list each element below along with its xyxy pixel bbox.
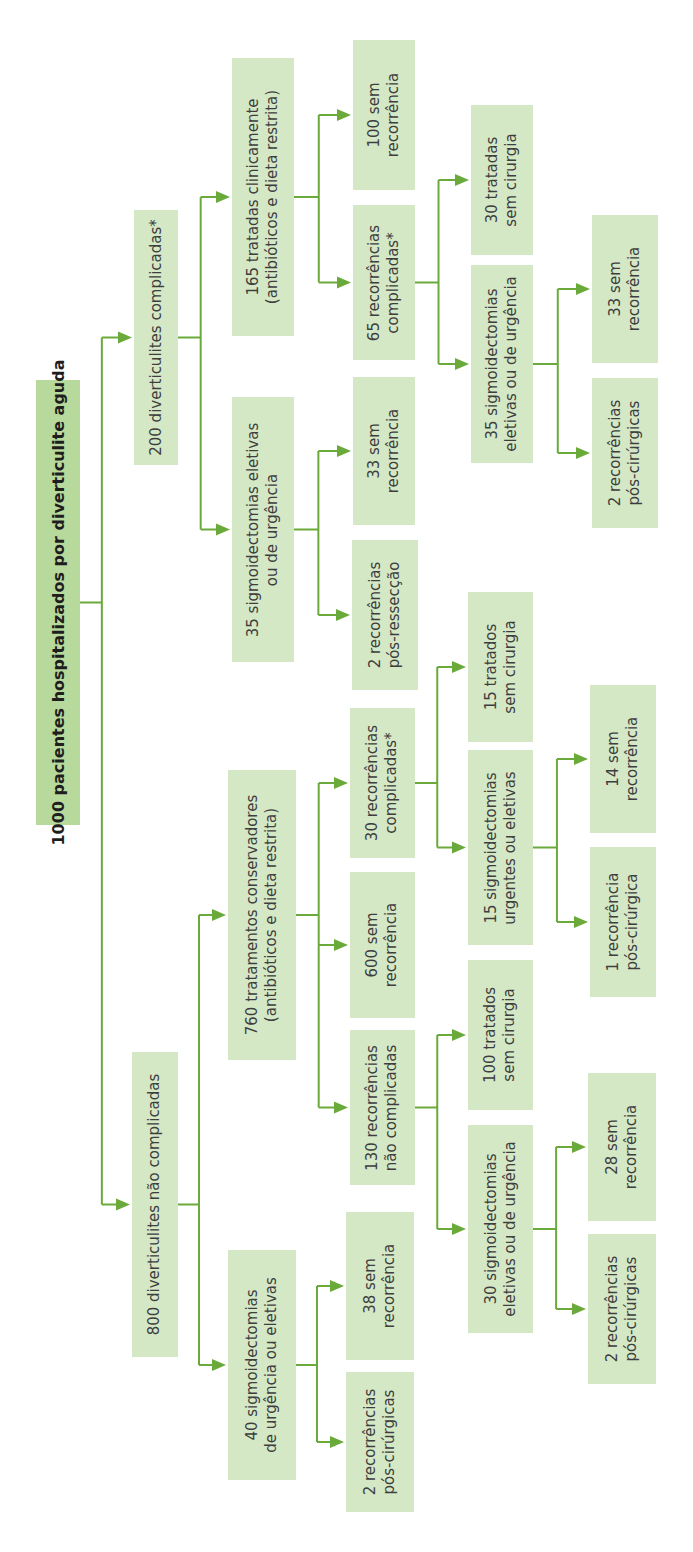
arrow-head-icon — [452, 1029, 466, 1041]
node-u-surg-norec-label: 38 sem recorrência — [361, 1244, 399, 1329]
node-c-clin-rec-label: 65 recorrências complicadas* — [365, 224, 403, 340]
node-u-cons-uncomp-label: 130 recorrências não complicadas — [364, 1044, 402, 1171]
node-c-surg-rec-label: 2 recorrências pós-ressecção — [366, 562, 404, 669]
node-u-conservative-label: 760 tratamentos conservadores (antibióti… — [243, 795, 281, 1036]
node-u-cons-norec: 600 sem recorrência — [350, 872, 415, 1018]
node-c-surg-norec: 33 sem recorrência — [353, 377, 415, 525]
arrow-head-icon — [212, 909, 226, 921]
node-c-clinical: 165 tratadas clinicamente (antibióticos … — [232, 58, 294, 336]
arrow-head-icon — [455, 358, 469, 370]
node-c-surg-norec-label: 33 sem recorrência — [365, 409, 403, 494]
node-uncomplicated-label: 800 diverticulites não complicadas — [146, 1074, 165, 1336]
node-u30-surg-label: 15 sigmoidectomias urgentes ou eletivas — [482, 771, 520, 924]
arrow-head-icon — [452, 1223, 466, 1235]
node-u-cons-uncomp: 130 recorrências não complicadas — [350, 1030, 415, 1185]
node-c35-rec-label: 2 recorrências pós-cirúrgicas — [606, 400, 644, 507]
arrow-head-icon — [572, 1303, 586, 1315]
node-c65-surg: 35 sigmoidectomias eletivas ou de urgênc… — [471, 265, 533, 463]
arrow-head-icon — [337, 445, 351, 457]
node-u30-nosurg: 15 tratados sem cirurgia — [468, 592, 533, 742]
node-c-clinical-label: 165 tratadas clinicamente (antibióticos … — [244, 90, 282, 304]
node-uncomplicated: 800 diverticulites não complicadas — [132, 1052, 178, 1357]
arrow-head-icon — [576, 447, 590, 459]
node-c-surgery-label: 35 sigmoidectomias eletivas ou de urgênc… — [244, 422, 282, 636]
arrow-head-icon — [118, 332, 132, 344]
arrow-head-icon — [216, 524, 230, 536]
node-u-surg-norec: 38 sem recorrência — [346, 1212, 414, 1360]
arrow-head-icon — [337, 277, 351, 289]
arrow-head-icon — [116, 1199, 130, 1211]
node-u130-nosurg-label: 100 tratados sem cirurgia — [482, 987, 520, 1083]
node-u-cons-comp: 30 recorrências complicadas* — [350, 708, 415, 858]
node-complicated: 200 diverticulites complicadas* — [134, 210, 178, 465]
arrow-head-icon — [336, 609, 350, 621]
node-c-surgery: 35 sigmoidectomias eletivas ou de urgênc… — [232, 397, 294, 662]
node-u130-surg-label: 30 sigmoidectomias eletivas ou de urgênc… — [482, 1141, 520, 1317]
node-root: 1000 pacientes hospitalizados por divert… — [36, 380, 80, 825]
node-c-clin-norec-label: 100 sem recorrência — [365, 73, 403, 158]
node-u30-surg: 15 sigmoidectomias urgentes ou eletivas — [468, 750, 533, 945]
arrow-head-icon — [452, 661, 466, 673]
node-u130-surg: 30 sigmoidectomias eletivas ou de urgênc… — [468, 1125, 533, 1333]
node-u-surg-rec-label: 2 recorrências pós-cirúrgicas — [361, 1389, 399, 1496]
arrow-head-icon — [337, 109, 351, 121]
node-c65-surg-label: 35 sigmoidectomias eletivas ou de urgênc… — [483, 276, 521, 452]
node-c35-rec: 2 recorrências pós-cirúrgicas — [592, 378, 658, 528]
node-c-surg-rec: 2 recorrências pós-ressecção — [352, 540, 418, 690]
node-u30s-norec: 28 sem recorrência — [588, 1073, 656, 1221]
node-c35-norec: 33 sem recorrência — [592, 215, 658, 363]
flowchart: 1000 pacientes hospitalizados por divert… — [0, 0, 693, 1552]
node-u-cons-norec-label: 600 sem recorrência — [364, 903, 402, 988]
arrow-head-icon — [576, 283, 590, 295]
arrow-head-icon — [334, 1102, 348, 1114]
node-c65-nosurg-label: 30 tratadas sem cirurgia — [483, 133, 521, 226]
node-u-surgery-label: 40 sigmoidectomias de urgência ou eletiv… — [243, 1277, 281, 1453]
node-c35-norec-label: 33 sem recorrência — [606, 247, 644, 332]
arrow-head-icon — [216, 191, 230, 203]
arrow-head-icon — [334, 939, 348, 951]
node-u30s-rec-label: 2 recorrências pós-cirúrgicas — [603, 1256, 641, 1363]
node-u30s-rec: 2 recorrências pós-cirúrgicas — [588, 1234, 656, 1384]
node-u-surgery: 40 sigmoidectomias de urgência ou eletiv… — [228, 1250, 296, 1480]
arrow-head-icon — [334, 777, 348, 789]
arrow-head-icon — [330, 1436, 344, 1448]
node-c-clin-rec: 65 recorrências complicadas* — [353, 205, 415, 360]
arrow-head-icon — [452, 842, 466, 854]
node-u15-rec-label: 1 recorrência pós-cirúrgica — [604, 873, 642, 972]
arrow-head-icon — [574, 753, 588, 765]
node-c65-nosurg: 30 tratadas sem cirurgia — [471, 105, 533, 255]
arrow-head-icon — [212, 1359, 226, 1371]
node-u30-nosurg-label: 15 tratados sem cirurgia — [482, 620, 520, 713]
node-u15-norec-label: 14 sem recorrência — [604, 717, 642, 802]
node-u15-rec: 1 recorrência pós-cirúrgica — [590, 847, 656, 997]
arrow-head-icon — [574, 916, 588, 928]
node-u-cons-comp-label: 30 recorrências complicadas* — [364, 725, 402, 841]
node-u130-nosurg: 100 tratados sem cirurgia — [468, 960, 533, 1110]
node-c-clin-norec: 100 sem recorrência — [353, 40, 415, 190]
arrow-head-icon — [455, 174, 469, 186]
node-u15-norec: 14 sem recorrência — [590, 685, 656, 833]
node-u30s-norec-label: 28 sem recorrência — [603, 1105, 641, 1190]
arrow-head-icon — [572, 1141, 586, 1153]
node-u-conservative: 760 tratamentos conservadores (antibióti… — [228, 770, 296, 1060]
arrow-head-icon — [330, 1280, 344, 1292]
node-u-surg-rec: 2 recorrências pós-cirúrgicas — [346, 1372, 414, 1512]
node-root-label: 1000 pacientes hospitalizados por divert… — [49, 359, 68, 845]
node-complicated-label: 200 diverticulites complicadas* — [147, 219, 166, 456]
